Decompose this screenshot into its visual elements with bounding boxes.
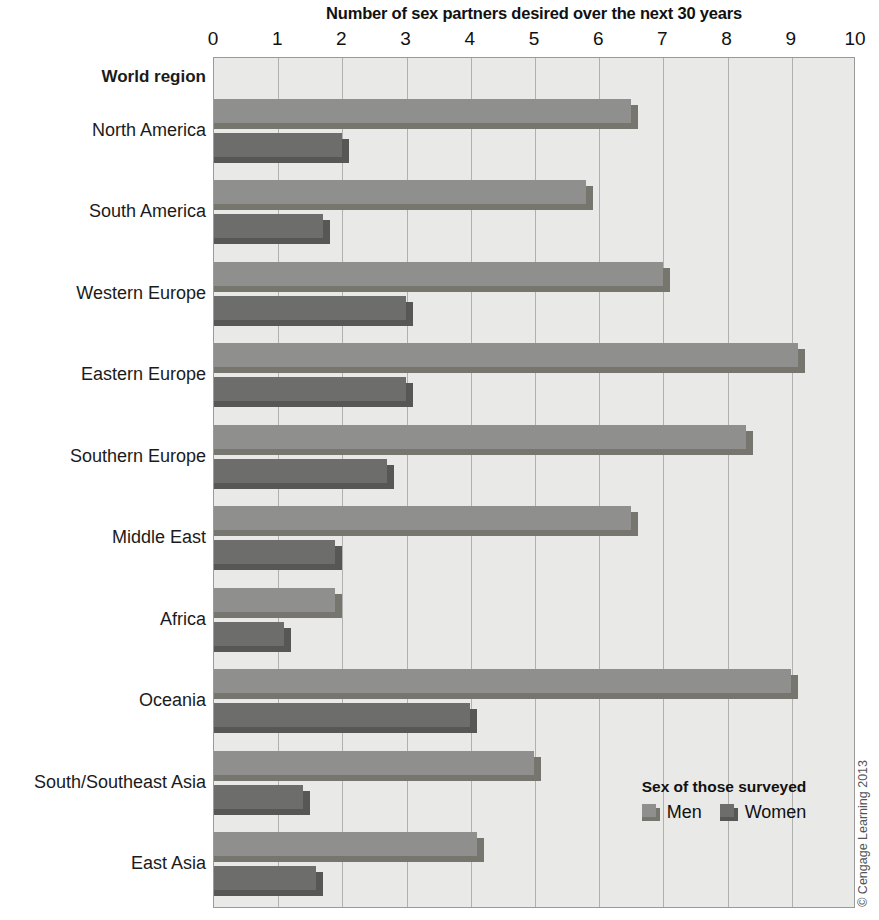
bar-women [214, 785, 310, 815]
bar-men [214, 262, 670, 292]
bar-women [214, 296, 413, 326]
legend-swatch-men-icon [642, 804, 660, 821]
x-tick-label: 6 [593, 28, 604, 50]
legend-item-men: Men [642, 802, 702, 823]
x-tick-label: 9 [786, 28, 797, 50]
x-tick-label: 10 [844, 28, 865, 50]
chart-title: Number of sex partners desired over the … [213, 4, 855, 23]
bar-men [214, 343, 805, 373]
legend-title: Sex of those surveyed [619, 778, 829, 796]
bar-women [214, 703, 477, 733]
category-label: Eastern Europe [81, 364, 206, 385]
legend-swatch-women-icon [720, 804, 738, 821]
bar-women [214, 866, 323, 896]
bar-women [214, 377, 413, 407]
bar-women [214, 540, 342, 570]
copyright-credit: © Cengage Learning 2013 [856, 760, 870, 907]
gridline [599, 58, 600, 907]
bar-men [214, 751, 541, 781]
category-label: Middle East [112, 527, 206, 548]
bar-men [214, 425, 753, 455]
category-label: Africa [160, 608, 206, 629]
category-label: Oceania [139, 690, 206, 711]
category-label: East Asia [131, 853, 206, 874]
category-label: Southern Europe [70, 445, 206, 466]
bar-men [214, 180, 593, 210]
x-axis-ticks: 012345678910 [0, 28, 879, 54]
x-tick-label: 4 [465, 28, 476, 50]
category-label: Western Europe [76, 282, 206, 303]
legend-items: Men Women [619, 802, 829, 823]
category-label: South America [89, 201, 206, 222]
bar-women [214, 133, 349, 163]
bar-women [214, 214, 330, 244]
legend-item-women: Women [720, 802, 807, 823]
x-tick-label: 5 [529, 28, 540, 50]
x-tick-label: 7 [657, 28, 668, 50]
bar-chart: Number of sex partners desired over the … [0, 0, 879, 920]
legend-label-men: Men [667, 802, 702, 823]
x-tick-label: 3 [400, 28, 411, 50]
x-tick-label: 2 [336, 28, 347, 50]
bar-men [214, 588, 342, 618]
legend-label-women: Women [745, 802, 807, 823]
bar-men [214, 669, 798, 699]
category-label: North America [92, 119, 206, 140]
bar-women [214, 459, 394, 489]
category-label: South/Southeast Asia [34, 771, 206, 792]
bar-men [214, 832, 484, 862]
bar-men [214, 99, 638, 129]
x-tick-label: 8 [721, 28, 732, 50]
x-tick-label: 0 [208, 28, 219, 50]
legend: Sex of those surveyed Men Women [619, 778, 829, 823]
bar-men [214, 506, 638, 536]
category-axis-header: World region [101, 67, 206, 87]
x-tick-label: 1 [272, 28, 283, 50]
bar-women [214, 622, 291, 652]
category-axis-labels: World regionNorth AmericaSouth AmericaWe… [0, 57, 206, 908]
